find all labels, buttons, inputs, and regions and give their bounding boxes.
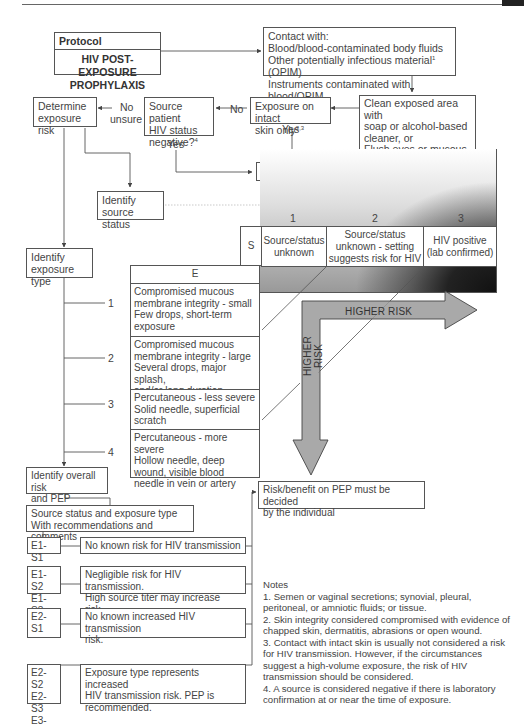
source-exposure-type-box: Source status and exposure type With rec… (26, 505, 194, 532)
note-1: 1. Semen or vaginal secretions; synovial… (263, 591, 513, 614)
result-box-e2-s2-s3-e3-all: Exposure type represents increased HIV t… (80, 664, 246, 704)
result-box-e1-s1: No known risk for HIV transmission (80, 537, 246, 554)
code-box-e2-s2-s3-e3-all: E2-S2 E2-S3 E3-All (27, 664, 61, 704)
note-2: 2. Skin integrity considered compromised… (263, 614, 513, 637)
result-box-e2-s1: No known increased HIV transmission risk… (80, 608, 246, 638)
identify-overall-risk-box: Identify overall risk and PEP indicated (26, 467, 108, 494)
note-4: 4. A source is considered negative if th… (263, 683, 513, 706)
code-box-e1-s1: E1-S1 (27, 537, 61, 554)
note-3: 3. Contact with intact skin is usually n… (263, 637, 513, 683)
result-box-e1-s2-s3: Negligible risk for HIV transmission. Hi… (80, 566, 246, 594)
risk-benefit-box: Risk/benefit on PEP must be decided by t… (258, 481, 425, 509)
code-box-e2-s1: E2-S1 (27, 608, 61, 638)
code-box-e1-s2-s3: E1-S2 E1-S3 (27, 566, 61, 594)
higher-risk-vertical-label: HIGHER RISK (302, 326, 324, 386)
notes-section: Notes 1. Semen or vaginal secretions; sy… (263, 579, 513, 706)
higher-risk-horizontal-label: HIGHER RISK (345, 306, 412, 317)
notes-title: Notes (263, 579, 513, 591)
